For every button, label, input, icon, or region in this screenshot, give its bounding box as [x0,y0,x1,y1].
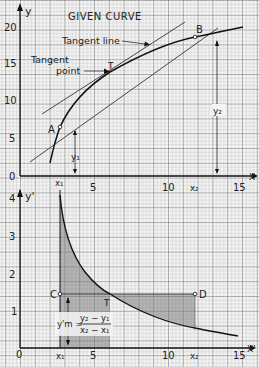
chart-title: GIVEN CURVE [68,11,142,22]
tangent-line-label: Tangent line [61,35,120,46]
x-tick-5: 5 [90,182,96,193]
x1-label-bottom: x₁ [56,351,64,361]
y-prime-tick-4: 4 [9,193,15,204]
y-prime-tick-1: 1 [11,306,17,317]
point-t-bottom-label: T [103,298,110,308]
x-prime-tick-5: 5 [90,350,96,361]
point-t-label: T [107,61,114,71]
point-c-label: C [50,289,57,300]
tangent-point-label-2: point [56,65,81,76]
x-tick-15: 15 [233,182,246,193]
x-prime-tick-15: 15 [233,350,246,361]
diagram-svg: 20 15 10 5 0 5 10 15 y X GIVEN CURVE A B… [0,0,259,367]
x1-label-top: x₁ [55,178,63,188]
point-a-marker [58,125,62,129]
x2-label-bottom: x₂ [190,351,198,361]
point-d-marker [193,292,197,296]
x2-label-top: x₂ [190,183,198,193]
y-tick-15: 15 [4,58,17,69]
point-d-label: D [199,289,207,300]
x-prime-tick-0: 0 [16,349,22,360]
tangent-point-label-1: Tangent [30,54,69,65]
y-prime-tick-2: 2 [9,269,15,280]
formula-denominator: x₂ − x₁ [80,325,109,335]
x-tick-10: 10 [162,182,175,193]
point-a-label: A [48,124,55,135]
point-c-marker [58,292,62,296]
y1-label: y₁ [71,152,80,162]
y-tick-5: 5 [9,133,15,144]
diagram-stage: 20 15 10 5 0 5 10 15 y X GIVEN CURVE A B… [0,0,259,367]
y-tick-0: 0 [9,171,15,182]
y2-label: y₂ [213,106,222,116]
x-prime-axis-label: X' [247,344,256,354]
formula-lhs: y'm = [57,319,82,329]
point-b-marker [193,35,197,39]
y-axis-label: y [25,5,32,18]
formula-numerator: y₂ − y₁ [80,313,109,323]
x-axis-label: X [249,172,255,182]
y-tick-10: 10 [4,95,17,106]
point-b-label: B [196,24,203,35]
x-prime-tick-10: 10 [162,350,175,361]
y-prime-tick-3: 3 [9,231,15,242]
y-tick-20: 20 [4,22,17,33]
y-prime-axis-label: y' [25,190,35,203]
